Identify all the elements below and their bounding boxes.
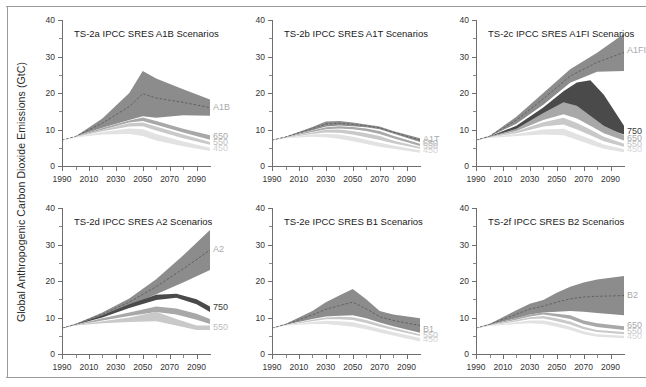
x-tick <box>380 167 381 171</box>
y-tick-minor <box>473 226 476 227</box>
x-tick <box>326 167 327 171</box>
scenario-label-450: 450 <box>627 144 642 154</box>
y-tick-minor <box>473 75 476 76</box>
y-tick-minor <box>269 111 272 112</box>
scenario-label-450: 450 <box>213 143 228 153</box>
x-tick-minor <box>286 355 287 358</box>
x-tick-minor <box>129 167 130 170</box>
y-tick-minor <box>59 38 62 39</box>
scenario-label-550: 550 <box>213 322 228 332</box>
x-axis-line <box>62 354 211 355</box>
x-axis-line <box>272 354 421 355</box>
panel-ts-2e: 010203040199020102030205020702090TS-2e I… <box>232 194 442 387</box>
y-tick <box>58 318 62 319</box>
y-tick <box>472 245 476 246</box>
y-tick <box>58 208 62 209</box>
x-tick <box>197 355 198 359</box>
y-tick-label: 0 <box>33 161 55 171</box>
y-axis-line <box>476 208 477 355</box>
scenario-label-b2: B2 <box>627 290 638 300</box>
y-tick <box>58 245 62 246</box>
x-tick-minor <box>570 355 571 358</box>
y-tick-minor <box>59 226 62 227</box>
x-tick <box>272 167 273 171</box>
y-tick <box>268 281 272 282</box>
x-tick-minor <box>156 167 157 170</box>
x-tick <box>503 167 504 171</box>
x-tick-minor <box>286 167 287 170</box>
panel-title: TS-2b IPCC SRES A1T Scenarios <box>284 28 428 39</box>
x-tick <box>503 355 504 359</box>
y-tick-label: 30 <box>243 52 265 62</box>
x-tick-minor <box>76 167 77 170</box>
y-tick-minor <box>59 148 62 149</box>
x-tick-minor <box>516 355 517 358</box>
y-tick <box>58 20 62 21</box>
x-tick-label: 2090 <box>390 362 424 372</box>
x-tick <box>197 167 198 171</box>
x-tick-minor <box>516 167 517 170</box>
x-tick-minor <box>312 355 313 358</box>
x-tick <box>143 167 144 171</box>
x-tick <box>353 355 354 359</box>
x-tick-minor <box>597 167 598 170</box>
scenario-label-750: 750 <box>213 302 228 312</box>
x-tick <box>116 167 117 171</box>
scenario-label-a2: A2 <box>213 244 224 254</box>
panel-ts-2c: 010203040199020102030205020702090TS-2c I… <box>436 6 646 199</box>
y-tick-label: 0 <box>447 161 469 171</box>
band-reference <box>476 276 624 328</box>
panel-title: TS-2e IPCC SRES B1 Scenarios <box>284 216 423 227</box>
panel-title: TS-2d IPCC SRES A2 Scenarios <box>74 216 212 227</box>
panel-ts-2f: 010203040199020102030205020702090TS-2f I… <box>436 194 646 387</box>
y-tick-label: 20 <box>447 276 469 286</box>
y-tick <box>472 93 476 94</box>
x-tick <box>116 355 117 359</box>
x-tick <box>353 167 354 171</box>
y-tick-label: 30 <box>243 240 265 250</box>
x-axis-line <box>62 166 211 167</box>
y-tick-label: 0 <box>243 349 265 359</box>
x-tick <box>611 167 612 171</box>
y-tick <box>58 93 62 94</box>
scenario-label-a1fi: A1FI <box>627 45 646 55</box>
y-axis-line <box>272 208 273 355</box>
x-tick-minor <box>490 167 491 170</box>
y-tick-minor <box>59 336 62 337</box>
x-tick <box>326 355 327 359</box>
y-tick-label: 0 <box>447 349 469 359</box>
x-tick-minor <box>366 355 367 358</box>
y-tick-minor <box>473 148 476 149</box>
x-tick-minor <box>183 355 184 358</box>
x-tick <box>89 355 90 359</box>
y-tick-label: 0 <box>243 161 265 171</box>
y-tick-minor <box>269 148 272 149</box>
x-axis-line <box>272 166 421 167</box>
y-tick-label: 40 <box>243 203 265 213</box>
y-tick <box>472 281 476 282</box>
x-tick-minor <box>312 167 313 170</box>
y-tick-minor <box>59 299 62 300</box>
x-tick-minor <box>597 355 598 358</box>
x-tick-minor <box>156 355 157 358</box>
x-tick <box>584 167 585 171</box>
x-tick-minor <box>76 355 77 358</box>
x-tick-label: 2090 <box>594 174 628 184</box>
x-tick-minor <box>393 167 394 170</box>
x-tick <box>272 355 273 359</box>
x-tick-minor <box>366 167 367 170</box>
y-tick-label: 10 <box>243 125 265 135</box>
y-tick <box>472 318 476 319</box>
panel-ts-2a: 010203040199020102030205020702090TS-2a I… <box>22 6 232 199</box>
scenario-label-450: 450 <box>627 331 642 341</box>
x-tick <box>530 167 531 171</box>
x-tick <box>299 167 300 171</box>
x-tick <box>557 355 558 359</box>
y-tick-label: 20 <box>447 88 469 98</box>
y-tick-minor <box>59 111 62 112</box>
x-tick <box>380 355 381 359</box>
y-tick-label: 40 <box>33 203 55 213</box>
x-axis-line <box>476 166 625 167</box>
x-tick <box>89 167 90 171</box>
x-tick-label: 2090 <box>594 362 628 372</box>
